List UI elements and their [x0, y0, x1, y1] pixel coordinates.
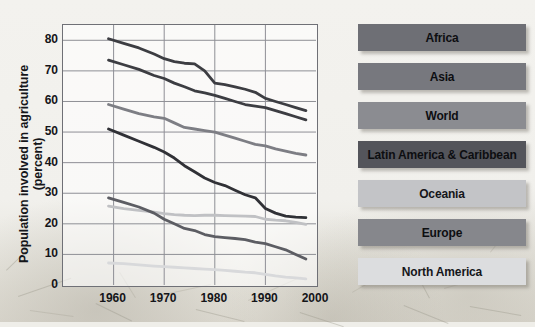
legend-item-world[interactable]: World	[358, 102, 526, 129]
series-line-oceania	[109, 206, 306, 224]
y-axis-ticks: 80706050403020100	[10, 24, 58, 287]
series-line-europe	[109, 198, 306, 259]
y-tick-label-10: 10	[14, 246, 58, 260]
legend-item-label: Asia	[430, 70, 455, 84]
legend-item-label: Africa	[425, 31, 458, 45]
legend-item-north-america[interactable]: North America	[358, 258, 526, 285]
y-tick-label-0: 0	[14, 277, 58, 291]
legend: AfricaAsiaWorldLatin America & Caribbean…	[358, 0, 535, 322]
y-tick-label-70: 70	[14, 63, 58, 77]
x-tick-label-2000: 2000	[285, 291, 345, 305]
series-lines	[109, 39, 306, 279]
y-tick-label-60: 60	[14, 93, 58, 107]
legend-item-label: North America	[402, 265, 482, 279]
plot-svg	[63, 25, 316, 285]
legend-item-oceania[interactable]: Oceania	[358, 180, 526, 207]
plot-area	[62, 24, 318, 287]
legend-item-africa[interactable]: Africa	[358, 24, 526, 51]
y-tick-label-50: 50	[14, 124, 58, 138]
y-tick-label-40: 40	[14, 155, 58, 169]
legend-item-asia[interactable]: Asia	[358, 63, 526, 90]
series-line-africa	[109, 39, 306, 111]
legend-item-label: Oceania	[419, 187, 465, 201]
y-tick-label-80: 80	[14, 32, 58, 46]
legend-item-label: Europe	[422, 226, 462, 240]
series-line-north-america	[109, 263, 306, 279]
legend-item-latin-america-caribbean[interactable]: Latin America & Caribbean	[358, 141, 526, 168]
y-tick-label-20: 20	[14, 216, 58, 230]
legend-item-europe[interactable]: Europe	[358, 219, 526, 246]
legend-item-label: World	[425, 109, 458, 123]
y-tick-label-30: 30	[14, 185, 58, 199]
series-line-latin-america-caribbean	[109, 129, 306, 218]
series-line-asia	[109, 60, 306, 120]
line-chart: Population involved in agriculture (perc…	[0, 0, 340, 322]
legend-item-label: Latin America & Caribbean	[367, 148, 516, 162]
